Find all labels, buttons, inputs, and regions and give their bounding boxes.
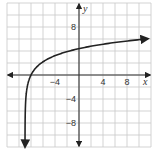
y-tick-label: −4 bbox=[66, 94, 76, 104]
y-tick-label: −8 bbox=[66, 118, 76, 128]
x-tick-label: −4 bbox=[50, 77, 60, 87]
curve-line bbox=[25, 39, 148, 147]
axes bbox=[8, 4, 150, 146]
function-graph: xy−4488−4−8 bbox=[0, 0, 152, 151]
y-axis-label: y bbox=[82, 3, 88, 14]
y-tick-label: 8 bbox=[71, 22, 76, 32]
x-tick-label: 8 bbox=[124, 77, 129, 87]
function-curve bbox=[25, 39, 148, 147]
tick-labels: xy−4488−4−8 bbox=[50, 3, 148, 128]
x-tick-label: 4 bbox=[100, 77, 105, 87]
x-axis-label: x bbox=[142, 76, 148, 87]
